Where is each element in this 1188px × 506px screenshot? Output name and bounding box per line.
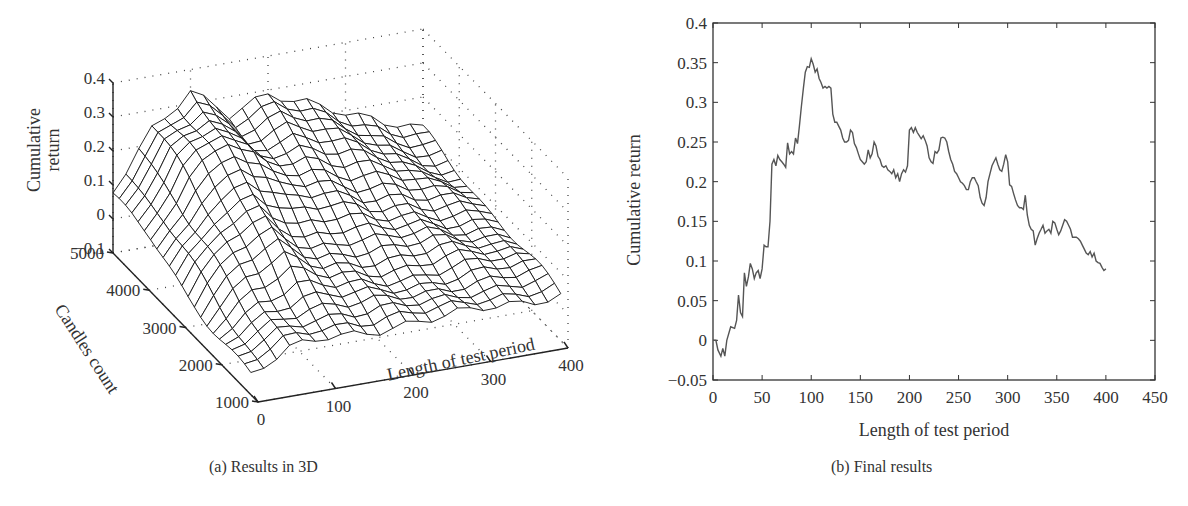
y-tick-label: 0.35 xyxy=(677,54,707,73)
x-axis-label: Length of test period xyxy=(385,334,536,385)
wireframe-surface xyxy=(113,91,561,373)
x-tick-label: 400 xyxy=(1093,388,1119,407)
y-tick-label: 0.4 xyxy=(686,14,708,33)
y-tick-label: 0.05 xyxy=(677,292,707,311)
y-tick-label: 0.1 xyxy=(686,252,707,271)
surface-3d-chart: −0.100.10.20.30.4 10002000300040005000 0… xyxy=(0,0,600,506)
x-axis-label: Length of test period xyxy=(859,420,1009,440)
cumulative-return-line xyxy=(713,59,1106,357)
y-tick-label: 3000 xyxy=(143,319,177,338)
x-tick-label: 400 xyxy=(558,356,584,375)
y-axis-label: Candles count xyxy=(51,300,124,397)
x-axis-ticks: 0100200300400 xyxy=(254,342,584,429)
y-tick-label: −0.05 xyxy=(668,371,707,390)
x-tick-label: 200 xyxy=(403,383,429,402)
x-tick-label: 300 xyxy=(481,370,507,389)
y-tick-label: 0.15 xyxy=(677,212,707,231)
z-tick-label: 0.4 xyxy=(84,69,106,88)
panel-3d-results: −0.100.10.20.30.4 10002000300040005000 0… xyxy=(0,0,600,506)
x-tick-label: 350 xyxy=(1044,388,1070,407)
panel-final-results: −0.0500.050.10.150.20.250.30.350.4 05010… xyxy=(600,0,1188,506)
y-tick-label: 0.25 xyxy=(677,133,707,152)
x-tick-label: 450 xyxy=(1142,388,1168,407)
z-axis-label-line1: Cumulative xyxy=(24,108,44,192)
z-axis-ticks: −0.100.10.20.30.4 xyxy=(74,69,113,258)
x-tick-label: 250 xyxy=(946,388,972,407)
x-tick-label: 0 xyxy=(709,388,718,407)
caption-a: (a) Results in 3D xyxy=(209,458,318,476)
z-tick-label: 0.3 xyxy=(84,103,105,122)
z-tick-label: 0.1 xyxy=(84,171,105,190)
y-tick-label: 2000 xyxy=(179,356,213,375)
y-tick-label: 4000 xyxy=(106,281,140,300)
x-tick-label: 50 xyxy=(754,388,771,407)
x-tick-label: 0 xyxy=(257,410,266,429)
y-tick-label: 5000 xyxy=(70,244,104,263)
z-axis-label-line2: return xyxy=(43,129,63,172)
x-tick-label: 200 xyxy=(897,388,923,407)
caption-b: (b) Final results xyxy=(831,458,932,476)
y-axis-label: Cumulative return xyxy=(624,134,644,265)
plot-frame xyxy=(713,23,1155,380)
x-tick-label: 300 xyxy=(995,388,1021,407)
line-chart: −0.0500.050.10.150.20.250.30.350.4 05010… xyxy=(600,0,1188,506)
y-tick-label: 0 xyxy=(699,331,708,350)
y-axis-ticks: −0.0500.050.10.150.20.250.30.350.4 xyxy=(668,14,1155,390)
y-tick-label: 1000 xyxy=(215,393,249,412)
x-tick-label: 150 xyxy=(848,388,874,407)
x-tick-label: 100 xyxy=(798,388,824,407)
x-tick-label: 100 xyxy=(326,397,352,416)
z-tick-label: 0 xyxy=(97,205,106,224)
y-tick-label: 0.2 xyxy=(686,173,707,192)
z-tick-label: 0.2 xyxy=(84,137,105,156)
x-axis-ticks: 050100150200250300350400450 xyxy=(709,23,1168,407)
y-tick-label: 0.3 xyxy=(686,93,707,112)
